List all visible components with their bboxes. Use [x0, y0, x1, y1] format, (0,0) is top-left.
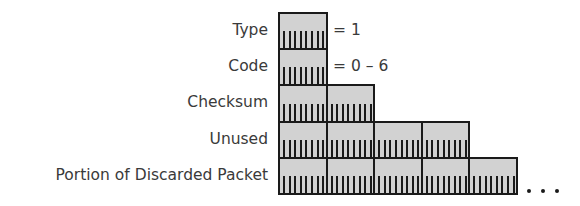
bit-tick	[454, 176, 456, 193]
bit-tick	[331, 140, 333, 157]
bit-tick	[347, 140, 349, 157]
bit-tick	[448, 140, 450, 157]
bit-tick	[289, 31, 291, 48]
bit-tick	[507, 176, 509, 193]
bit-tick	[305, 31, 307, 48]
byte-box	[326, 84, 376, 122]
bit-tick	[353, 176, 355, 193]
bit-tick	[417, 176, 419, 193]
bit-tick	[437, 140, 439, 157]
bit-tick	[322, 140, 324, 157]
bit-tick	[311, 176, 313, 193]
bit-tick	[490, 176, 492, 193]
byte-box	[468, 157, 518, 195]
bit-tick	[513, 176, 515, 193]
bit-tick	[283, 104, 285, 121]
bit-tick	[317, 176, 319, 193]
bit-tick	[395, 140, 397, 157]
field-label-portion-of-discarded-packet: Portion of Discarded Packet	[56, 168, 268, 184]
bit-tick	[353, 104, 355, 121]
bit-tick	[331, 104, 333, 121]
bit-tick	[322, 176, 324, 193]
bit-tick	[322, 31, 324, 48]
bit-tick	[401, 176, 403, 193]
byte-box	[326, 157, 376, 195]
bit-tick	[395, 176, 397, 193]
bit-tick	[289, 67, 291, 84]
bit-tick	[283, 176, 285, 193]
bit-tick	[501, 176, 503, 193]
bit-tick	[473, 176, 475, 193]
bit-tick	[465, 176, 467, 193]
field-label-code: Code	[228, 59, 268, 75]
bit-tick	[443, 176, 445, 193]
bit-tick	[300, 104, 302, 121]
bit-tick	[342, 104, 344, 121]
byte-box	[373, 157, 423, 195]
bit-tick	[437, 176, 439, 193]
bit-tick	[342, 140, 344, 157]
bit-tick	[311, 31, 313, 48]
bit-tick	[283, 140, 285, 157]
bit-tick	[353, 140, 355, 157]
bit-tick	[406, 140, 408, 157]
bit-tick	[364, 104, 366, 121]
field-label-type: Type	[232, 23, 268, 39]
bit-tick	[384, 176, 386, 193]
bit-tick	[364, 140, 366, 157]
bit-tick	[289, 104, 291, 121]
bit-tick	[294, 31, 296, 48]
bit-tick	[406, 176, 408, 193]
bit-tick	[370, 176, 372, 193]
ellipsis-dot-icon	[527, 189, 531, 193]
bit-tick	[370, 140, 372, 157]
bit-tick	[294, 104, 296, 121]
byte-box	[421, 157, 471, 195]
byte-box	[278, 48, 328, 86]
bit-tick	[300, 67, 302, 84]
byte-box	[421, 121, 471, 159]
bit-tick	[300, 31, 302, 48]
bit-tick	[305, 67, 307, 84]
bit-tick	[336, 176, 338, 193]
field-label-unused: Unused	[210, 132, 268, 148]
byte-box	[278, 12, 328, 50]
bit-tick	[289, 176, 291, 193]
bit-tick	[431, 140, 433, 157]
bit-tick	[283, 31, 285, 48]
bit-tick	[294, 67, 296, 84]
bit-tick	[412, 140, 414, 157]
bit-tick	[364, 176, 366, 193]
bit-tick	[417, 140, 419, 157]
bit-tick	[443, 140, 445, 157]
bit-tick	[311, 67, 313, 84]
bit-tick	[378, 176, 380, 193]
byte-box	[373, 121, 423, 159]
bit-tick	[322, 104, 324, 121]
bit-tick	[370, 104, 372, 121]
bit-tick	[289, 140, 291, 157]
bit-tick	[389, 176, 391, 193]
byte-box	[326, 121, 376, 159]
bit-tick	[300, 176, 302, 193]
bit-tick	[465, 140, 467, 157]
bit-tick	[305, 176, 307, 193]
packet-format-diagram: Type= 1Code= 0 – 6ChecksumUnusedPortion …	[0, 0, 580, 206]
field-label-checksum: Checksum	[187, 95, 268, 111]
bit-tick	[401, 140, 403, 157]
bit-tick	[347, 176, 349, 193]
bit-tick	[454, 140, 456, 157]
bit-tick	[294, 140, 296, 157]
bit-tick	[317, 67, 319, 84]
bit-tick	[485, 176, 487, 193]
bit-tick	[359, 176, 361, 193]
bit-tick	[426, 176, 428, 193]
bit-tick	[336, 140, 338, 157]
bit-tick	[448, 176, 450, 193]
bit-tick	[317, 140, 319, 157]
bit-tick	[331, 176, 333, 193]
bit-tick	[311, 140, 313, 157]
bit-tick	[317, 104, 319, 121]
bit-tick	[496, 176, 498, 193]
field-value-note: = 0 – 6	[333, 59, 388, 75]
